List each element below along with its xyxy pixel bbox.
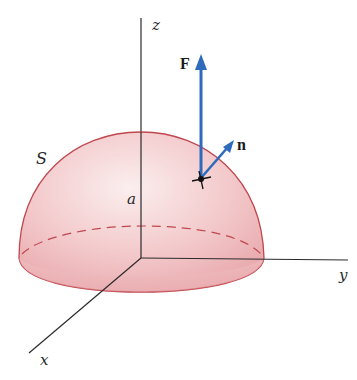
surface-label: S (36, 149, 47, 168)
force-label: F (180, 55, 190, 72)
normal-label: n (237, 136, 246, 153)
hemisphere-diagram: z y x S a F n (0, 0, 357, 380)
z-axis-label: z (151, 16, 160, 34)
y-axis-label: y (338, 266, 348, 284)
radius-label: a (127, 190, 136, 208)
x-axis-label: x (40, 351, 49, 369)
